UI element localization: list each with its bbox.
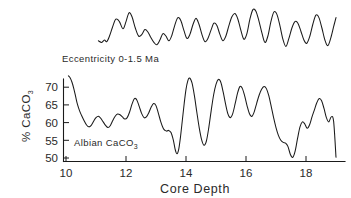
x-tick-label: 18 bbox=[300, 167, 313, 179]
x-tick-label: 12 bbox=[120, 167, 133, 179]
x-tick-label: 14 bbox=[180, 167, 193, 179]
chart-svg: Eccentricity 0-1.5 Ma bbox=[0, 0, 351, 198]
y-axis-title: % CaCO3 bbox=[20, 90, 34, 142]
x-tick-label: 10 bbox=[60, 167, 73, 179]
y-tick-label: 50 bbox=[45, 152, 58, 164]
x-tick-label: 16 bbox=[240, 167, 253, 179]
y-tick-label: 60 bbox=[45, 117, 58, 129]
eccentricity-label: Eccentricity 0-1.5 Ma bbox=[62, 53, 159, 64]
y-tick-label: 70 bbox=[45, 81, 58, 93]
albian-caco3-label: Albian CaCO3 bbox=[74, 137, 138, 150]
y-tick-label: 65 bbox=[45, 99, 58, 111]
x-axis-title: Core Depth bbox=[160, 182, 230, 196]
y-tick-label: 55 bbox=[45, 135, 58, 147]
figure-caco3-eccentricity: Eccentricity 0-1.5 Ma bbox=[0, 0, 351, 198]
